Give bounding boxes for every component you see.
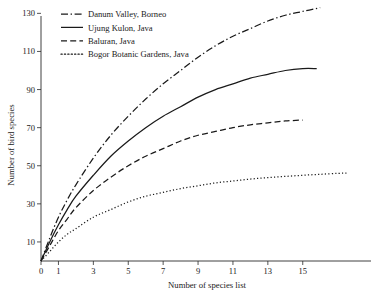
- x-tick-label: 5: [126, 266, 130, 276]
- series-line-2: [41, 68, 317, 261]
- y-tick-label: 10: [27, 237, 36, 247]
- y-tick-label: 30: [27, 199, 36, 209]
- chart-canvas: 1030507090110130 013579111315 Danum Vall…: [0, 0, 373, 292]
- x-axis-title: Number of species list: [168, 280, 247, 290]
- y-tick-label: 50: [27, 161, 36, 171]
- x-tick-label: 1: [56, 266, 60, 276]
- x-tick-label: 7: [161, 266, 165, 276]
- x-tick-label: 11: [229, 266, 237, 276]
- x-axis-ticks: 013579111315: [39, 261, 307, 276]
- y-axis-ticks: 1030507090110130: [22, 8, 41, 247]
- y-tick-label: 110: [23, 46, 35, 56]
- x-tick-label: 3: [91, 266, 95, 276]
- legend-label-1: Danum Valley, Borneo: [88, 9, 166, 19]
- x-tick-label: 0: [39, 266, 43, 276]
- y-tick-label: 70: [27, 123, 36, 133]
- series-line-1: [41, 8, 320, 261]
- chart-legend: Danum Valley, BorneoUjung Kulon, JavaBal…: [61, 9, 189, 59]
- x-tick-label: 9: [196, 266, 200, 276]
- y-tick-label: 130: [22, 8, 35, 18]
- legend-label-3: Baluran, Java: [88, 36, 135, 46]
- y-tick-label: 90: [27, 85, 36, 95]
- x-tick-label: 13: [264, 266, 273, 276]
- series-line-4: [41, 173, 348, 261]
- species-accumulation-chart: 1030507090110130 013579111315 Danum Vall…: [0, 0, 373, 292]
- x-tick-label: 15: [299, 266, 308, 276]
- legend-label-4: Bogor Botanic Gardens, Java: [88, 49, 189, 59]
- y-axis-title: Number of bird species: [6, 104, 16, 186]
- legend-label-2: Ujung Kulon, Java: [88, 23, 153, 33]
